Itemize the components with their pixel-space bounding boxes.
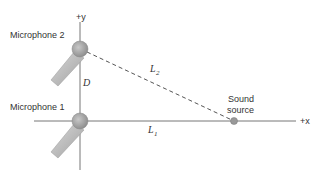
y-axis-label: +y (76, 12, 86, 22)
sound-source-label-line2: source (227, 105, 254, 115)
microphone-1-label: Microphone 1 (10, 102, 65, 112)
microphone-2-label: Microphone 2 (10, 30, 65, 40)
diagram-canvas: +y +x Microphone 2 Microphone 1 D L 2 L … (0, 0, 319, 176)
svg-text:1: 1 (154, 130, 158, 138)
svg-text:2: 2 (156, 69, 160, 77)
distance-d-label: D (82, 77, 91, 88)
x-axis-label: +x (300, 116, 310, 126)
microphone-1-icon (51, 113, 88, 158)
svg-text:L: L (147, 124, 154, 135)
sound-source-point (231, 118, 238, 125)
l2-dashed-line (87, 52, 234, 121)
l2-label: L 2 (149, 63, 160, 77)
sound-source-label-line1: Sound (228, 94, 254, 104)
svg-text:L: L (149, 63, 156, 74)
l1-label: L 1 (147, 124, 158, 138)
